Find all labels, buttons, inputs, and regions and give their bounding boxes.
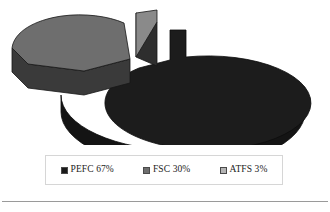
pie-slice-atfs bbox=[136, 10, 157, 66]
legend-label-fsc: FSC 30% bbox=[153, 165, 190, 175]
legend-item-pefc: PEFC 67% bbox=[61, 165, 114, 175]
fsc-top-face bbox=[12, 15, 130, 71]
pie-chart-figure: PEFC 67% FSC 30% ATFS 3% bbox=[0, 0, 330, 212]
legend-item-fsc: FSC 30% bbox=[143, 165, 190, 175]
legend-swatch-fsc-icon bbox=[143, 167, 150, 174]
legend-label-atfs: ATFS 3% bbox=[230, 165, 268, 175]
pie-plot-area bbox=[0, 0, 330, 145]
chart-legend: PEFC 67% FSC 30% ATFS 3% bbox=[45, 155, 283, 185]
pie-svg bbox=[0, 0, 330, 145]
legend-label-pefc: PEFC 67% bbox=[71, 165, 114, 175]
legend-swatch-pefc-icon bbox=[61, 167, 68, 174]
legend-swatch-atfs-icon bbox=[220, 167, 227, 174]
pie-slice-fsc bbox=[12, 15, 130, 95]
bottom-divider bbox=[2, 201, 328, 202]
legend-item-atfs: ATFS 3% bbox=[220, 165, 268, 175]
